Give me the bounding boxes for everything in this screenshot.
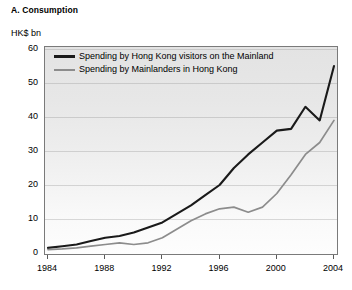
series-line-2	[48, 120, 334, 249]
legend-color-swatch	[54, 69, 75, 71]
x-tick-label: 1988	[84, 264, 124, 273]
legend-item: Spending by Mainlanders in Hong Kong	[54, 63, 330, 76]
chart-legend: Spending by Hong Kong visitors on the Ma…	[54, 50, 330, 76]
x-tick-mark	[47, 255, 48, 259]
x-tick-mark	[276, 255, 277, 259]
y-tick-label: 0	[4, 248, 38, 257]
y-tick-label: 40	[4, 112, 38, 121]
y-axis-unit-label: HK$ bn	[11, 28, 41, 38]
y-tick-label: 50	[4, 78, 38, 87]
legend-item: Spending by Hong Kong visitors on the Ma…	[54, 50, 330, 63]
x-tick-label: 1996	[199, 264, 239, 273]
x-tick-mark	[333, 255, 334, 259]
y-tick-label: 20	[4, 180, 38, 189]
x-tick-mark	[219, 255, 220, 259]
y-tick-label: 10	[4, 214, 38, 223]
legend-label: Spending by Mainlanders in Hong Kong	[79, 64, 238, 75]
legend-label: Spending by Hong Kong visitors on the Ma…	[79, 51, 274, 62]
x-tick-label: 1992	[141, 264, 181, 273]
y-tick-label: 60	[4, 44, 38, 53]
x-tick-label: 1984	[27, 264, 67, 273]
x-tick-label: 2004	[313, 264, 352, 273]
consumption-chart-panel: A. Consumption HK$ bn 0102030405060 1984…	[0, 0, 352, 290]
y-tick-label: 30	[4, 146, 38, 155]
series-lines	[45, 47, 338, 255]
panel-title: A. Consumption	[11, 5, 78, 15]
x-tick-mark	[161, 255, 162, 259]
legend-color-swatch	[54, 55, 75, 58]
x-tick-mark	[104, 255, 105, 259]
x-tick-label: 2000	[256, 264, 296, 273]
plot-area	[44, 46, 338, 255]
